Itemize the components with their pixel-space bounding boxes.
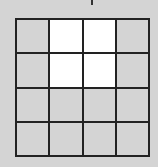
top-tick-mark: [91, 0, 93, 5]
grid-cell-r2-c2: [83, 88, 116, 122]
grid-cell-r3-c0: [16, 122, 49, 156]
grid-cell-r2-c1: [49, 88, 82, 122]
grid-cell-r1-c1: [49, 53, 82, 87]
grid-cell-r1-c2: [83, 53, 116, 87]
grid-4x4: [15, 18, 150, 157]
grid-cell-r3-c1: [49, 122, 82, 156]
grid-cell-r0-c0: [16, 19, 49, 53]
grid-cell-r2-c3: [116, 88, 149, 122]
grid-cell-r2-c0: [16, 88, 49, 122]
grid-cell-r0-c2: [83, 19, 116, 53]
grid-cell-r1-c3: [116, 53, 149, 87]
grid-cell-r3-c3: [116, 122, 149, 156]
grid-cell-r3-c2: [83, 122, 116, 156]
grid-cell-r0-c1: [49, 19, 82, 53]
grid-cell-r1-c0: [16, 53, 49, 87]
grid-cell-r0-c3: [116, 19, 149, 53]
